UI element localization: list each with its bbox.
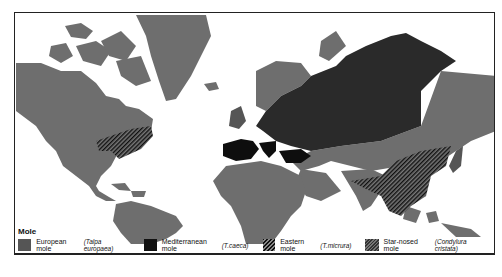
- legend-item-mediterranean-mole: Mediterranean mole (T.caeca): [144, 238, 249, 252]
- legend-common-name: Star-nosed mole: [384, 238, 432, 252]
- legend-title: Mole: [18, 227, 36, 236]
- european-mole-swatch: [18, 239, 31, 251]
- legend-common-name: Eastern mole: [280, 238, 317, 252]
- legend-common-name: European mole: [36, 238, 81, 252]
- map-frame: [14, 12, 495, 255]
- world-map: [15, 13, 495, 255]
- star-nosed-mole-swatch: [365, 239, 378, 251]
- legend-scientific-name: (T.caeca): [222, 242, 249, 249]
- legend-scientific-name: (T.micrura): [320, 242, 351, 249]
- legend-scientific-name: (Condylura cristata): [435, 238, 488, 252]
- legend-item-star-nosed-mole: Star-nosed mole (Condylura cristata): [365, 238, 488, 252]
- legend-item-european-mole: European mole (Talpa europaea): [18, 238, 130, 252]
- eastern-mole-swatch: [263, 239, 276, 251]
- legend-item-eastern-mole: Eastern mole (T.micrura): [263, 238, 352, 252]
- mediterranean-mole-swatch: [144, 239, 157, 251]
- legend: European mole (Talpa europaea) Mediterra…: [18, 238, 502, 252]
- legend-common-name: Mediterranean mole: [162, 238, 219, 252]
- legend-scientific-name: (Talpa europaea): [84, 238, 130, 252]
- north-america-land: [16, 15, 219, 244]
